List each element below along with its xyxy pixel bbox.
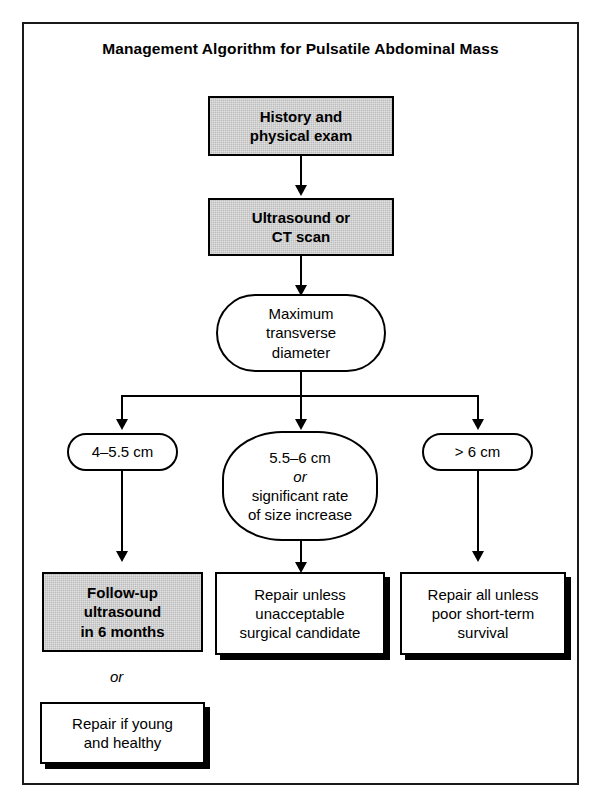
node-imaging-line-2: CT scan <box>252 227 350 246</box>
node-outcome-repair-unless-line-3: surgical candidate <box>240 623 361 642</box>
node-outcome-repair-unless-line-2: unacceptable <box>240 604 361 623</box>
node-branch-medium-line-3: significant rate <box>248 486 352 505</box>
node-outcome-surveillance-line-1: Follow-up <box>80 583 164 602</box>
connector-split-to-branch-small <box>121 395 123 421</box>
connector-measurement-to-split <box>300 372 302 397</box>
node-branch-medium-line-2: or <box>248 467 352 486</box>
node-outcome-repair-unless-line-1: Repair unless <box>240 585 361 604</box>
node-maximum-transverse-diameter: Maximum transverse diameter <box>216 294 386 372</box>
node-branch-large-label: > 6 cm <box>455 442 500 461</box>
arrowhead-branch-medium <box>295 419 307 430</box>
arrowhead-outcome-surveillance <box>116 551 128 562</box>
node-outcome-follow-up-ultrasound: Follow-up ultrasound in 6 months <box>42 572 203 652</box>
connector-branch-small-to-outcome <box>121 471 123 553</box>
node-outcome-repair-young-line-2: and healthy <box>72 733 173 752</box>
node-outcome-repair-all-line-1: Repair all unless <box>428 585 539 604</box>
node-outcome-repair-unless-unacceptable: Repair unless unacceptable surgical cand… <box>215 572 385 655</box>
node-measurement-line-3: diameter <box>266 343 336 362</box>
arrowhead-history-to-imaging <box>295 185 307 196</box>
node-history-line-2: physical exam <box>250 126 353 145</box>
connector-split-to-branch-medium <box>300 395 302 421</box>
node-branch-small-label: 4–5.5 cm <box>92 442 154 461</box>
node-outcome-repair-all-unless: Repair all unless poor short-term surviv… <box>400 572 566 655</box>
node-outcome-surveillance-line-2: ultrasound <box>80 602 164 621</box>
node-ultrasound-or-ct-scan: Ultrasound or CT scan <box>208 198 394 256</box>
arrowhead-outcome-repair-all <box>472 551 484 562</box>
connector-split-to-branch-large <box>477 395 479 421</box>
node-measurement-line-1: Maximum <box>266 304 336 323</box>
connector-imaging-to-measurement <box>300 256 302 288</box>
node-branch-medium-line-1: 5.5–6 cm <box>248 448 352 467</box>
alternative-or-label: or <box>110 668 123 685</box>
node-branch-4-to-5-5-cm: 4–5.5 cm <box>67 433 178 471</box>
node-measurement-line-2: transverse <box>266 323 336 342</box>
node-outcome-repair-if-young-and-healthy: Repair if young and healthy <box>40 702 205 764</box>
arrowhead-branch-large <box>472 419 484 430</box>
connector-history-to-imaging <box>300 156 302 188</box>
node-imaging-line-1: Ultrasound or <box>252 208 350 227</box>
arrowhead-branch-small <box>116 419 128 430</box>
node-branch-5-5-to-6-cm-or-significant-rate: 5.5–6 cm or significant rate of size inc… <box>222 431 378 541</box>
connector-branch-large-to-outcome <box>477 471 479 553</box>
node-branch-medium-line-4: of size increase <box>248 505 352 524</box>
node-history-and-physical-exam: History and physical exam <box>208 96 394 156</box>
node-branch-greater-than-6-cm: > 6 cm <box>422 433 533 471</box>
node-outcome-repair-all-line-3: survival <box>428 623 539 642</box>
node-history-line-1: History and <box>250 107 353 126</box>
figure-title: Management Algorithm for Pulsatile Abdom… <box>22 40 579 58</box>
node-outcome-surveillance-line-3: in 6 months <box>80 622 164 641</box>
node-outcome-repair-all-line-2: poor short-term <box>428 604 539 623</box>
figure-page: Management Algorithm for Pulsatile Abdom… <box>0 0 596 803</box>
node-outcome-repair-young-line-1: Repair if young <box>72 714 173 733</box>
